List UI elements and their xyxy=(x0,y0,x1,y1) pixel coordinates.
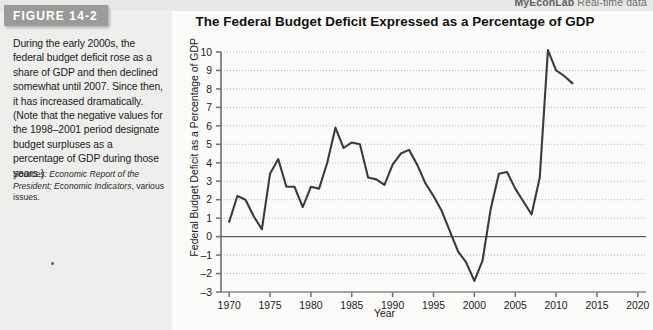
x-tick-label: 1980 xyxy=(299,300,322,311)
caption-column: FIGURE 14-2 During the early 2000s, the … xyxy=(0,11,172,330)
y-tick-label: 1 xyxy=(206,213,212,224)
myeconlab-brand-name: MyEconLab xyxy=(514,0,574,8)
chart-panel: The Federal Budget Deficit Expressed as … xyxy=(172,11,653,330)
sources-label: Sources: xyxy=(13,169,47,179)
x-tick-label: 1985 xyxy=(340,300,363,311)
y-tick-label: 8 xyxy=(206,84,212,95)
scan-speck-artifact xyxy=(51,262,54,265)
y-tick-label: –3 xyxy=(200,287,212,298)
x-tick-label: 1970 xyxy=(218,300,241,311)
y-tick-label: 9 xyxy=(206,65,212,76)
y-axis-ticks: –3–2–1012345678910 xyxy=(200,47,221,298)
y-tick-label: 5 xyxy=(206,139,212,150)
x-tick-label: 2020 xyxy=(626,300,649,311)
chart-plot: –3–2–1012345678910 197019751980198519901… xyxy=(172,11,653,330)
figure-caption-text: During the early 2000s, the federal budg… xyxy=(13,37,165,181)
figure-sources: Sources: Economic Report of the Presiden… xyxy=(13,169,169,204)
y-tick-label: 4 xyxy=(206,158,212,169)
x-tick-label: 1995 xyxy=(422,300,445,311)
x-tick-label: 2000 xyxy=(463,300,486,311)
x-tick-label: 2010 xyxy=(545,300,568,311)
y-tick-label: –1 xyxy=(200,250,212,261)
x-tick-label: 2015 xyxy=(585,300,608,311)
x-tick-label: 1975 xyxy=(258,300,281,311)
sources-title-2: Economic Indicators xyxy=(54,181,131,191)
figure-number-banner: FIGURE 14-2 xyxy=(4,5,108,26)
grid-lines xyxy=(221,52,646,292)
x-tick-label: 1990 xyxy=(381,300,404,311)
x-axis-ticks: 1970197519801985199019952000200520102015… xyxy=(218,292,650,311)
y-tick-label: –2 xyxy=(200,268,212,279)
y-tick-label: 0 xyxy=(206,231,212,242)
y-tick-label: 10 xyxy=(200,47,212,58)
myeconlab-brand-tagline: Real-time data xyxy=(577,0,647,8)
y-tick-label: 6 xyxy=(206,121,212,132)
y-tick-label: 7 xyxy=(206,102,212,113)
x-tick-label: 2005 xyxy=(504,300,527,311)
y-tick-label: 3 xyxy=(206,176,212,187)
figure-number-label: FIGURE 14-2 xyxy=(13,9,98,23)
myeconlab-branding: MyEconLab Real-time data xyxy=(514,0,647,8)
deficit-line-series xyxy=(229,50,572,281)
figure-container: MyEconLab Real-time data FIGURE 14-2 Dur… xyxy=(0,0,653,330)
y-tick-label: 2 xyxy=(206,194,212,205)
